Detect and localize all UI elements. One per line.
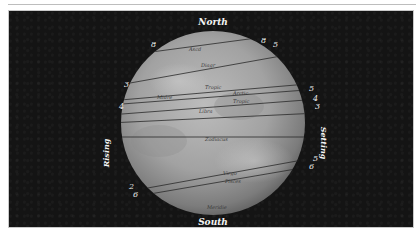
- inner-label: Virgo: [223, 170, 237, 177]
- left-number: 8: [151, 40, 156, 49]
- inner-label: Midre: [156, 94, 172, 100]
- sphere-diagram: Ascd Diagr Tropic Midre Arctic Tropic Li…: [9, 11, 414, 228]
- left-number: 3: [124, 80, 129, 89]
- rising-label: Rising: [101, 138, 111, 168]
- inner-label: Pisces: [224, 178, 241, 184]
- inner-label: Libra: [198, 108, 213, 114]
- south-label: South: [198, 217, 228, 227]
- left-number: 6: [133, 190, 138, 199]
- north-label: North: [197, 17, 228, 27]
- right-number: 5: [309, 84, 314, 93]
- diagram-frame: Ascd Diagr Tropic Midre Arctic Tropic Li…: [8, 10, 414, 228]
- inner-label: Ascd: [188, 46, 201, 52]
- left-number: 4: [118, 102, 124, 111]
- sphere: [121, 31, 305, 215]
- inner-label: Tropic: [205, 84, 222, 91]
- right-number: 5: [273, 40, 278, 49]
- right-number: 8: [261, 36, 266, 45]
- inner-label: Arctic: [232, 90, 248, 96]
- inner-label: Meridie: [206, 204, 227, 210]
- inner-label: Diagr: [200, 62, 216, 69]
- right-number: 6: [309, 162, 314, 171]
- inner-label: Zodiacus: [204, 136, 228, 142]
- inner-label: Tropic: [233, 98, 250, 105]
- top-rule: [8, 4, 416, 5]
- right-number: 3: [315, 102, 320, 111]
- setting-label: Setting: [319, 127, 329, 160]
